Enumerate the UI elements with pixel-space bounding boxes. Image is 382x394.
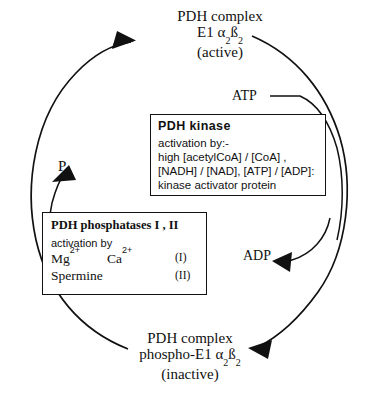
dephosphorylation-outer-arc	[31, 42, 131, 349]
top-complex-beta-sub: 2	[238, 35, 243, 46]
pdh-kinase-line-3: [NADH] / [NAD], [ATP] / [ADP]:	[158, 164, 319, 178]
bottom-complex-beta-sub: 2	[236, 357, 241, 368]
calcium-symbol: Ca	[107, 251, 122, 266]
spermine-label: Spermine	[51, 268, 103, 284]
phosphate-i-subscript: i	[66, 166, 69, 177]
magnesium-charge: 2+	[70, 245, 80, 255]
pdh-cycle-diagram: PDH complex E1 α2ß2 (active) PDH complex…	[0, 0, 382, 394]
arrowhead-to-active-complex-fill	[112, 31, 136, 49]
pdh-phosphatases-ion-row: Mg2+ Ca2+ (I)	[51, 249, 200, 268]
bottom-complex-e1: phospho-E1	[139, 346, 215, 362]
top-complex-line2: E1 α2ß2	[140, 24, 300, 44]
top-complex-label: PDH complex E1 α2ß2 (active)	[140, 8, 300, 60]
pdh-phosphatases-title: PDH phosphatases I , II	[51, 218, 200, 233]
phosphatase-tag-two: (II)	[175, 269, 190, 281]
top-complex-beta: ß	[230, 24, 238, 40]
bottom-complex-line1: PDH complex	[95, 330, 285, 346]
pdh-kinase-line-1: activation by:-	[158, 136, 319, 150]
pdh-phosphatases-box: PDH phosphatases I , II activation by Mg…	[42, 212, 207, 295]
bottom-complex-beta: ß	[228, 346, 236, 362]
adp-label: ADP	[243, 248, 287, 263]
top-complex-line1: PDH complex	[140, 8, 300, 24]
bottom-complex-line3: (inactive)	[95, 366, 285, 382]
calcium-ion: Ca2+	[107, 249, 132, 267]
bottom-complex-line2: phospho-E1 α2ß2	[95, 346, 285, 366]
bottom-complex-label: PDH complex phospho-E1 α2ß2 (inactive)	[95, 330, 285, 382]
top-complex-line3: (active)	[140, 44, 300, 60]
pdh-kinase-line-4: kinase activator protein	[158, 178, 319, 192]
pdh-kinase-line-2: high [acetylCoA] / [CoA] ,	[158, 150, 319, 164]
pdh-kinase-title: PDH kinase	[158, 119, 319, 133]
top-complex-alpha-sub: 2	[225, 35, 230, 46]
bottom-complex-alpha-sub: 2	[223, 357, 228, 368]
magnesium-ion: Mg2+	[51, 249, 80, 267]
phosphatase-tag-one: (I)	[175, 251, 187, 263]
phosphate-label: Pi	[58, 158, 88, 174]
atp-label: ATP	[232, 88, 272, 103]
magnesium-symbol: Mg	[51, 251, 70, 266]
top-complex-e1: E1	[197, 24, 217, 40]
pdh-phosphatases-spermine-row: Spermine (II)	[51, 268, 200, 286]
pdh-kinase-box: PDH kinase activation by:- high [acetylC…	[150, 114, 326, 196]
calcium-charge: 2+	[122, 245, 132, 255]
